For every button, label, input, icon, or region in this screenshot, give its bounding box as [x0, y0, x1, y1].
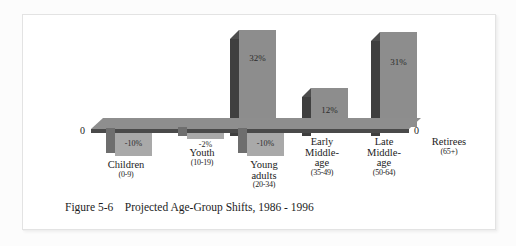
bar-value-label: -10% — [247, 139, 284, 148]
figure-caption-label: Figure 5-6 — [65, 201, 113, 213]
bar-retirees[interactable]: 31% — [380, 32, 417, 127]
category-label-children: Children (0-9) — [89, 160, 163, 179]
bar-youth[interactable]: -2% — [187, 133, 224, 139]
bar-side-face — [106, 128, 115, 153]
baseline-slab-top — [91, 118, 421, 129]
category-range: (20-34) — [235, 181, 293, 189]
bar-children[interactable]: -10% — [115, 133, 152, 156]
category-range: (65+) — [415, 148, 483, 156]
bar-side-face — [178, 127, 187, 136]
category-range: (50-64) — [353, 169, 415, 177]
figure-caption-gap — [113, 201, 125, 213]
bar-front-face — [187, 133, 224, 139]
category-range: (10-19) — [171, 159, 233, 167]
bar-value-label: 32% — [239, 53, 276, 63]
figure-page: 32% 12% 31% 0 0 — [0, 0, 516, 246]
category-label-young-adults: Young adults (20-34) — [235, 160, 293, 190]
axis-zero-right: 0 — [414, 125, 419, 136]
axis-zero-left: 0 — [80, 125, 85, 136]
category-label-late-middle-age: Late Middle- age (50-64) — [353, 137, 415, 177]
category-label-early-middle-age: Early Middle- age (35-49) — [291, 137, 353, 177]
bar-early-middle-age[interactable]: 32% — [239, 30, 276, 127]
chart-plot-area: 32% 12% 31% 0 0 — [23, 15, 495, 175]
bar-value-label: -10% — [115, 139, 152, 148]
bar-value-label: 31% — [380, 57, 417, 67]
bar-value-label: 12% — [311, 105, 348, 115]
category-range: (35-49) — [291, 169, 353, 177]
category-label-retirees: Retirees (65+) — [415, 137, 483, 156]
bar-side-face — [238, 128, 247, 153]
bar-front-face — [380, 32, 417, 127]
category-label-youth: Youth (10-19) — [171, 148, 233, 167]
figure-caption-title: Projected Age-Group Shifts, 1986 - 1996 — [125, 201, 314, 213]
figure-caption: Figure 5-6 Projected Age-Group Shifts, 1… — [65, 201, 314, 213]
bar-young-adults[interactable]: -10% — [247, 133, 284, 156]
figure-frame: 32% 12% 31% 0 0 — [22, 14, 496, 230]
category-range: (0-9) — [89, 171, 163, 179]
bar-front-face — [239, 30, 276, 127]
